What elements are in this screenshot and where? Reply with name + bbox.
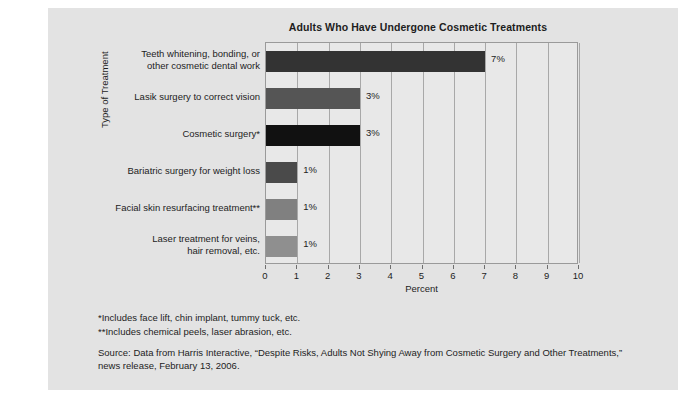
tick-mark — [328, 265, 329, 269]
bar-value-label: 3% — [366, 127, 380, 138]
tick-mark — [390, 265, 391, 269]
tick-label: 3 — [356, 270, 361, 281]
bar[interactable] — [266, 125, 360, 146]
bar[interactable] — [266, 199, 297, 220]
bar-row: 3% — [266, 80, 577, 117]
category-label: Facial skin resurfacing treatment** — [60, 202, 260, 214]
category-label: Bariatric surgery for weight loss — [60, 165, 260, 177]
source-note: Source: Data from Harris Interactive, “D… — [98, 346, 643, 372]
tick-label: 2 — [325, 270, 330, 281]
category-label-line: hair removal, etc. — [60, 245, 260, 257]
chart-title: Adults Who Have Undergone Cosmetic Treat… — [48, 21, 678, 33]
footnote-1: *Includes face lift, chin implant, tummy… — [98, 311, 300, 325]
category-label-line: Teeth whitening, bonding, or — [60, 48, 260, 60]
category-label-line: Lasik surgery to correct vision — [60, 91, 260, 103]
tick-label: 0 — [262, 270, 267, 281]
bar-value-label: 1% — [303, 201, 317, 212]
tick-label: 5 — [419, 270, 424, 281]
bar[interactable] — [266, 162, 297, 183]
tick-mark — [547, 265, 548, 269]
category-label: Teeth whitening, bonding, orother cosmet… — [60, 48, 260, 71]
category-label: Cosmetic surgery* — [60, 128, 260, 140]
tick-label: 7 — [481, 270, 486, 281]
gridline — [579, 43, 580, 263]
bar-value-label: 3% — [366, 90, 380, 101]
tick-label: 9 — [544, 270, 549, 281]
tick-mark — [578, 265, 579, 269]
tick-mark — [265, 265, 266, 269]
bar[interactable] — [266, 88, 360, 109]
bar-value-label: 7% — [491, 53, 505, 64]
tick-label: 1 — [294, 270, 299, 281]
plot-area: 7%3%3%1%1%1% — [265, 42, 578, 264]
bar-row: 7% — [266, 43, 577, 80]
category-label-line: Laser treatment for veins, — [60, 233, 260, 245]
x-axis-ticks: 012345678910 — [265, 265, 578, 281]
bar[interactable] — [266, 236, 297, 257]
footnotes: *Includes face lift, chin implant, tummy… — [98, 311, 300, 338]
tick-mark — [422, 265, 423, 269]
tick-label: 10 — [573, 270, 584, 281]
category-label-line: other cosmetic dental work — [60, 60, 260, 72]
bar-value-label: 1% — [303, 164, 317, 175]
tick-mark — [484, 265, 485, 269]
tick-label: 6 — [450, 270, 455, 281]
category-label-line: Facial skin resurfacing treatment** — [60, 202, 260, 214]
bar-row: 3% — [266, 117, 577, 154]
footnote-2: **Includes chemical peels, laser abrasio… — [98, 325, 300, 339]
bar-row: 1% — [266, 228, 577, 265]
figure-panel: Adults Who Have Undergone Cosmetic Treat… — [48, 8, 678, 390]
bar[interactable] — [266, 51, 485, 72]
tick-mark — [359, 265, 360, 269]
bar-row: 1% — [266, 191, 577, 228]
category-label-line: Bariatric surgery for weight loss — [60, 165, 260, 177]
bar-row: 1% — [266, 154, 577, 191]
bar-value-label: 1% — [303, 238, 317, 249]
category-label: Lasik surgery to correct vision — [60, 91, 260, 103]
category-label: Laser treatment for veins,hair removal, … — [60, 233, 260, 256]
tick-mark — [515, 265, 516, 269]
category-label-column: Teeth whitening, bonding, orother cosmet… — [58, 42, 260, 264]
tick-label: 4 — [388, 270, 393, 281]
category-label-line: Cosmetic surgery* — [60, 128, 260, 140]
x-axis-title: Percent — [265, 283, 578, 294]
tick-label: 8 — [513, 270, 518, 281]
tick-mark — [453, 265, 454, 269]
tick-mark — [296, 265, 297, 269]
